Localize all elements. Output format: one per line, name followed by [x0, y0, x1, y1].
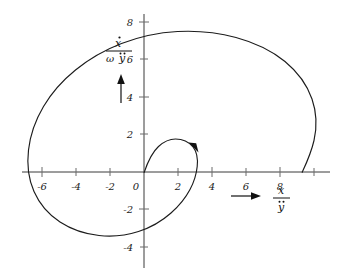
x-label-denominator-dot-left — [279, 201, 281, 203]
x-tick-label-0: -6 — [37, 181, 47, 192]
x-tick-label-1: -4 — [71, 181, 81, 192]
x-label-numerator: x — [278, 184, 285, 197]
axis-lines — [22, 14, 330, 268]
y-label-numerator-dot — [118, 36, 120, 38]
x-axis-label-group: x y — [231, 184, 290, 214]
x-tick-label-5: 4 — [208, 181, 215, 192]
up-arrow-icon — [117, 74, 125, 84]
right-arrow-icon — [251, 192, 261, 200]
y-label-denominator-dot-right — [124, 53, 126, 55]
y-tick-label-1: 6 — [127, 54, 134, 65]
y-label-numerator: x — [115, 37, 122, 50]
y-tick-label-2: 4 — [126, 92, 133, 103]
x-label-denominator-dot-right — [283, 201, 285, 203]
x-tick-label-4: 2 — [174, 181, 181, 192]
direction-arrowhead-icon — [189, 143, 199, 153]
y-label-denominator-omega: ω — [106, 53, 114, 64]
y-tick-label-3: 2 — [126, 129, 133, 140]
y-tick-label-6: -4 — [123, 242, 133, 253]
x-tick-label-6: 6 — [243, 181, 250, 192]
y-tick-label-0: 8 — [127, 17, 133, 28]
x-label-denominator: y — [277, 201, 285, 214]
x-tick-label-2: -2 — [105, 181, 115, 192]
phase-plane-figure: -6 -4 -2 0 2 4 6 8 8 6 4 2 -2 -4 x ω y — [0, 0, 347, 278]
phase-plane-plot: -6 -4 -2 0 2 4 6 8 8 6 4 2 -2 -4 x ω y — [0, 0, 347, 278]
x-tick-label-3: 0 — [133, 181, 140, 192]
y-tick-label-5: -2 — [123, 204, 133, 215]
y-label-denominator-dot-left — [120, 53, 122, 55]
spiral-trajectory-curve — [28, 31, 316, 236]
